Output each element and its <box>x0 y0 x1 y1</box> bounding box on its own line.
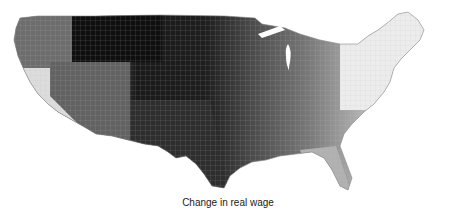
map-fill <box>0 0 456 195</box>
map-caption: Change in real wage <box>0 197 456 208</box>
us-county-map <box>0 0 456 195</box>
